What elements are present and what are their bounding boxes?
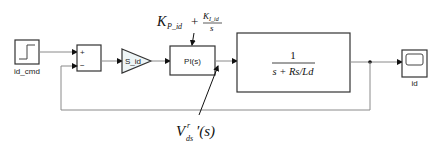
step-label: id_cmd [14, 67, 40, 76]
scope-label: id [411, 79, 417, 88]
plant-denominator: s + Rs/Ld [273, 66, 315, 77]
plant-block[interactable]: 1 s + Rs/Ld [237, 33, 350, 92]
sum-plus-sign: + [80, 48, 85, 57]
formula-plus: + [191, 14, 198, 29]
plant-numerator: 1 [290, 49, 296, 61]
gain-label: S_id [125, 57, 141, 66]
scope-block[interactable]: id [402, 50, 427, 88]
plant-block-frame[interactable] [237, 33, 350, 92]
sum-block[interactable]: + − [77, 45, 101, 71]
step-block[interactable]: id_cmd [14, 40, 40, 76]
pi-formula-annotation: K P_id + K I_id s [156, 11, 222, 45]
formula-pointer-arrow [192, 33, 194, 45]
pi-block[interactable]: PI(s) [170, 46, 215, 75]
pi-label: PI(s) [184, 57, 201, 66]
gain-block[interactable]: S_id [122, 49, 151, 73]
ki-subscript: I_id [208, 16, 220, 22]
voltage-superscript: r [187, 121, 191, 130]
ki-denominator: s [210, 23, 214, 33]
kp-symbol: K [156, 14, 167, 29]
sum-minus-sign: − [80, 61, 85, 70]
scope-screen-icon [406, 54, 423, 65]
voltage-subscript: ds [186, 134, 193, 143]
kp-subscript: P_id [166, 22, 183, 31]
block-diagram: id_cmd + − S_id PI(s) 1 s + Rs/Ld id [0, 0, 436, 149]
voltage-suffix: ′(s) [196, 123, 215, 140]
voltage-annotation: V ds r ′(s) [176, 66, 218, 143]
